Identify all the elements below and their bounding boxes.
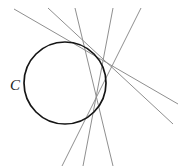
geometry-figure: C [0, 0, 181, 168]
figure-background [0, 0, 181, 168]
figure-canvas: C [0, 0, 181, 168]
circle-label-c: C [10, 77, 21, 93]
